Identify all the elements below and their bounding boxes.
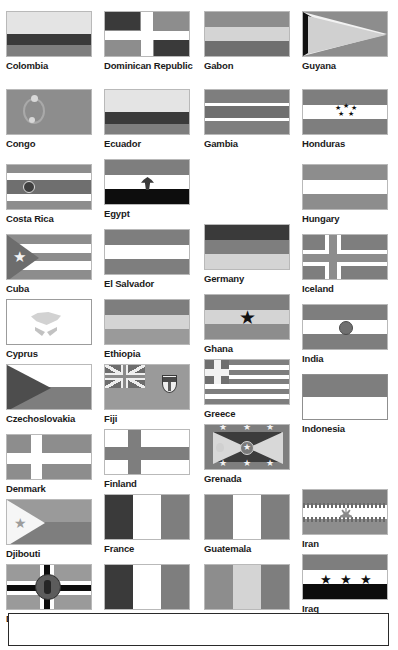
flag-caption: India — [302, 353, 394, 364]
flag-column-4: Guyana ★ ★ ★ ★ ★ Honduras Hungary — [302, 0, 398, 650]
flag-entry-indonesia[interactable]: Indonesia — [302, 374, 394, 434]
flag-image-czechoslovakia — [6, 364, 92, 410]
island-shape-icon — [31, 312, 61, 325]
flag-image-guyana — [302, 11, 388, 57]
coat-of-arms-icon — [23, 181, 35, 193]
flag-caption: Cuba — [6, 283, 98, 294]
flag-image-colombia — [6, 11, 92, 57]
flag-image-ecuador — [104, 89, 190, 135]
flag-entry-greece[interactable]: Greece — [204, 359, 296, 419]
flag-column-2: Dominican Republic Ecuador Egypt El — [104, 0, 200, 650]
flag-caption: Guyana — [302, 60, 394, 71]
flag-entry-colombia[interactable]: Colombia — [6, 11, 98, 71]
flag-entry-egypt[interactable]: Egypt — [104, 159, 196, 219]
flag-image-dominica — [6, 564, 92, 610]
union-jack-canton-icon — [105, 365, 145, 388]
flag-image-iraq: ★ ★ ★ — [302, 554, 388, 600]
flag-entry-czechoslovakia[interactable]: Czechoslovakia — [6, 364, 98, 424]
flag-caption: Ethiopia — [104, 348, 196, 359]
flag-entry-ghana[interactable]: ★ Ghana — [204, 294, 296, 354]
flag-image-egypt — [104, 159, 190, 205]
olive-branch-icon-2 — [47, 327, 57, 336]
flag-image-grenada: ★ ★ ★ ★ ★ ★ ★ — [204, 424, 290, 470]
flag-image-greece — [204, 359, 290, 405]
flag-entry-costa-rica[interactable]: Costa Rica — [6, 164, 98, 224]
flag-entry-djibouti[interactable]: ★ Djibouti — [6, 499, 98, 559]
flag-caption: Fiji — [104, 413, 196, 424]
flag-entry-india[interactable]: India — [302, 304, 394, 364]
flag-caption: Djibouti — [6, 548, 98, 559]
flag-entry-cuba[interactable]: ★ Cuba — [6, 234, 98, 294]
flag-caption: Costa Rica — [6, 213, 98, 224]
flag-entry-denmark[interactable]: Denmark — [6, 434, 98, 494]
flag-caption: Hungary — [302, 213, 394, 224]
flag-caption: Grenada — [204, 473, 296, 484]
flag-entry-gabon[interactable]: Gabon — [204, 11, 296, 71]
flag-caption: Colombia — [6, 60, 98, 71]
flag-image-el-salvador — [104, 229, 190, 275]
flag-image-gambia — [204, 89, 290, 135]
flag-caption: Indonesia — [302, 423, 394, 434]
flag-caption: Dominican Republic — [104, 60, 196, 71]
flag-caption: Ecuador — [104, 138, 196, 149]
flag-entry-grenada[interactable]: ★ ★ ★ ★ ★ ★ ★ Grenada — [204, 424, 296, 484]
flag-caption: Cyprus — [6, 348, 98, 359]
flag-image-french-guiana — [104, 564, 190, 610]
flag-entry-ecuador[interactable]: Ecuador — [104, 89, 196, 149]
ashoka-chakra-icon — [339, 321, 353, 335]
flag-entry-hungary[interactable]: Hungary — [302, 164, 394, 224]
flag-entry-iran[interactable]: Iran — [302, 489, 394, 549]
flag-entry-gambia[interactable]: Gambia — [204, 89, 296, 149]
flag-entry-iraq[interactable]: ★ ★ ★ Iraq — [302, 554, 394, 614]
flag-image-indonesia — [302, 374, 388, 420]
flag-caption: Iceland — [302, 283, 394, 294]
flag-column-3: Gabon Gambia Germany ★ Ghana — [204, 0, 300, 650]
flag-image-guinea — [204, 564, 290, 610]
flag-entry-congo[interactable]: Congo — [6, 89, 98, 149]
flag-entry-cyprus[interactable]: Cyprus — [6, 299, 98, 359]
flag-entry-germany[interactable]: Germany — [204, 224, 296, 284]
flag-caption: Congo — [6, 138, 98, 149]
flag-image-costa-rica — [6, 164, 92, 210]
flag-caption: Iran — [302, 538, 394, 549]
flag-image-congo — [6, 89, 92, 135]
flag-caption: Gambia — [204, 138, 296, 149]
flag-image-hungary — [302, 164, 388, 210]
flag-image-ethiopia — [104, 299, 190, 345]
flag-entry-france[interactable]: France — [104, 494, 196, 554]
flag-entry-iceland[interactable]: Iceland — [302, 234, 394, 294]
flag-image-djibouti: ★ — [6, 499, 92, 545]
kufic-script-band-top — [303, 503, 387, 508]
nutmeg-icon — [216, 443, 224, 452]
flag-image-cyprus — [6, 299, 92, 345]
flag-caption: Egypt — [104, 208, 196, 219]
flag-image-ghana: ★ — [204, 294, 290, 340]
flag-caption: Czechoslovakia — [6, 413, 98, 424]
flag-entry-el-salvador[interactable]: El Salvador — [104, 229, 196, 289]
flag-caption: Germany — [204, 273, 296, 284]
flag-image-denmark — [6, 434, 92, 480]
flag-entry-guyana[interactable]: Guyana — [302, 11, 394, 71]
flag-caption: France — [104, 543, 196, 554]
hoist-triangle — [7, 365, 51, 410]
flag-image-honduras: ★ ★ ★ ★ ★ — [302, 89, 388, 135]
flag-column-1: Colombia Congo Costa Rica — [6, 0, 102, 650]
flag-image-gabon — [204, 11, 290, 57]
flag-image-iceland — [302, 234, 388, 280]
star-icon: ★ — [13, 250, 26, 265]
flag-image-cuba: ★ — [6, 234, 92, 280]
flag-image-guatemala — [204, 494, 290, 540]
flag-entry-ethiopia[interactable]: Ethiopia — [104, 299, 196, 359]
flag-image-finland — [104, 429, 190, 475]
flag-entry-finland[interactable]: Finland — [104, 429, 196, 489]
flag-image-fiji — [104, 364, 190, 410]
flag-entry-dominican-republic[interactable]: Dominican Republic — [104, 11, 196, 71]
flag-image-france — [104, 494, 190, 540]
bottom-note-box — [8, 613, 389, 646]
flag-caption: Denmark — [6, 483, 98, 494]
flag-image-india — [302, 304, 388, 350]
flag-entry-guatemala[interactable]: Guatemala — [204, 494, 296, 554]
star-icon: ★ — [14, 516, 27, 530]
flag-entry-fiji[interactable]: Fiji — [104, 364, 196, 424]
flag-entry-honduras[interactable]: ★ ★ ★ ★ ★ Honduras — [302, 89, 394, 149]
